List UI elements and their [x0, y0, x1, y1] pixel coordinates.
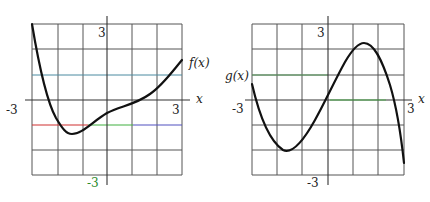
right-tick-bottom: -3 [307, 176, 319, 190]
right-graph: 3 -3 -3 3 g(x) x [225, 16, 425, 190]
left-tick-right: 3 [172, 103, 180, 117]
right-tick-top: 3 [317, 26, 325, 40]
figure: 3 -3 -3 3 f(x) x 3 -3 -3 3 g(x) [0, 0, 430, 202]
right-tick-left: -3 [232, 102, 244, 116]
right-tick-right: 3 [407, 102, 415, 116]
left-tick-bottom: -3 [87, 176, 99, 190]
right-x-label: x [418, 92, 425, 106]
left-graph: 3 -3 -3 3 f(x) x [6, 16, 210, 190]
left-tick-left: -3 [6, 103, 18, 117]
g-label: g(x) [225, 69, 249, 83]
left-x-label: x [196, 92, 203, 106]
f-label: f(x) [188, 56, 210, 70]
left-tick-top: 3 [98, 26, 106, 40]
